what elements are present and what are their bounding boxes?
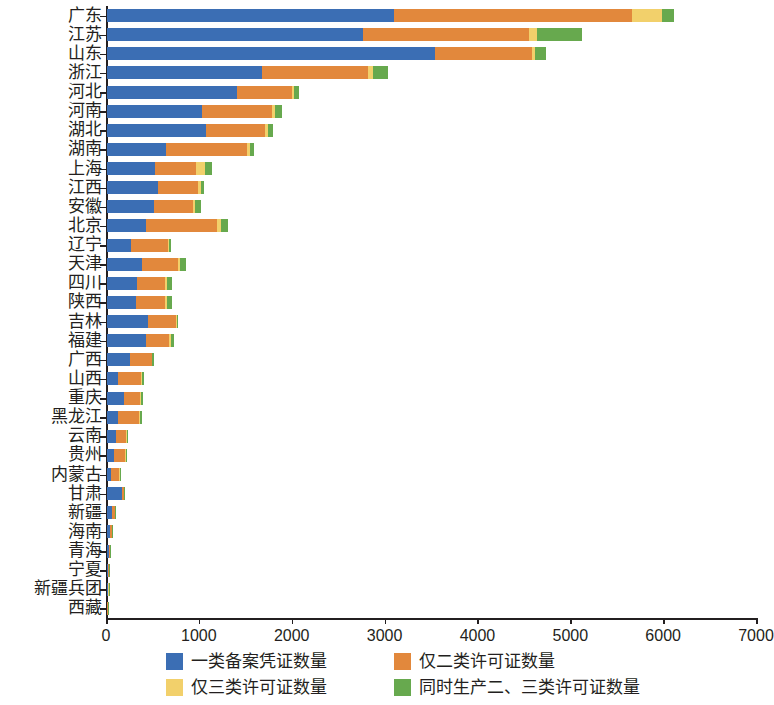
bar-segment [294, 86, 300, 99]
bar-segment [107, 86, 237, 99]
bar-row [107, 124, 273, 137]
bar-row [107, 525, 113, 538]
legend: 一类备案凭证数量 仅二类许可证数量 仅三类许可证数量 同时生产二、三类许可证数量 [166, 648, 746, 700]
bar-segment [435, 47, 533, 60]
category-label: 新疆 [0, 504, 102, 521]
x-axis-tick-label: 1000 [181, 627, 217, 645]
bar-segment [111, 468, 119, 481]
bar-segment [107, 181, 158, 194]
category-label: 新疆兵团 [0, 580, 102, 597]
bar-segment [107, 47, 435, 60]
bar-segment [107, 239, 131, 252]
bar-row [107, 392, 143, 405]
bar-segment [529, 28, 536, 41]
bar-segment [158, 181, 198, 194]
bar-segment [127, 430, 128, 443]
category-label: 山东 [0, 45, 102, 62]
bar-segment [140, 411, 142, 424]
category-label: 上海 [0, 160, 102, 177]
bar-row [107, 334, 174, 347]
bar-segment [107, 315, 148, 328]
bar-segment [107, 430, 116, 443]
bar-segment [107, 449, 114, 462]
bar-segment [177, 315, 179, 328]
bar-segment [250, 143, 254, 156]
x-axis-tick [385, 618, 387, 624]
bar-segment [275, 105, 282, 118]
x-axis-tick [756, 618, 758, 624]
bar-row [107, 449, 126, 462]
bar-segment [107, 219, 146, 232]
bar-segment [124, 392, 141, 405]
bar-segment [537, 28, 583, 41]
bar-segment [632, 9, 663, 22]
x-axis-tick [477, 618, 479, 624]
category-label: 陕西 [0, 293, 102, 310]
plot-area: 01000200030004000500060007000 [106, 6, 756, 618]
bar-segment [171, 334, 174, 347]
bar-segment [146, 219, 217, 232]
bar-segment [196, 162, 205, 175]
category-label: 黑龙江 [0, 408, 102, 425]
x-axis-tick-label: 7000 [738, 627, 774, 645]
category-label: 北京 [0, 217, 102, 234]
bar-segment [142, 372, 144, 385]
bar-segment [141, 392, 143, 405]
bar-row [107, 315, 178, 328]
bar-segment [142, 258, 178, 271]
bar-row [107, 239, 171, 252]
bar-row [107, 86, 299, 99]
category-label: 广东 [0, 7, 102, 24]
bar-segment [662, 9, 674, 22]
bar-segment [107, 105, 202, 118]
category-label: 西藏 [0, 599, 102, 616]
bar-segment [152, 353, 154, 366]
x-axis-tick-label: 5000 [552, 627, 588, 645]
bar-segment [107, 200, 154, 213]
bar-segment [118, 372, 141, 385]
bar-row [107, 219, 228, 232]
legend-item-0: 一类备案凭证数量 [166, 652, 394, 671]
bar-row [107, 506, 116, 519]
category-label: 甘肃 [0, 485, 102, 502]
bar-row [107, 353, 154, 366]
bar-segment [205, 162, 212, 175]
bar-segment [206, 124, 265, 137]
bar-row [107, 372, 144, 385]
legend-swatch-icon-0 [166, 653, 183, 670]
bar-segment [148, 315, 176, 328]
bar-segment [167, 296, 172, 309]
bar-segment [107, 372, 118, 385]
bar-segment [107, 353, 130, 366]
bar-segment [107, 411, 118, 424]
legend-item-2: 仅三类许可证数量 [166, 678, 394, 697]
bar-row [107, 28, 582, 41]
category-label: 海南 [0, 523, 102, 540]
legend-row-1: 一类备案凭证数量 仅二类许可证数量 [166, 648, 746, 674]
category-label: 浙江 [0, 64, 102, 81]
bar-row [107, 105, 282, 118]
bar-segment [107, 487, 122, 500]
bar-row [107, 468, 120, 481]
bar-segment [146, 334, 169, 347]
x-axis-tick-label: 4000 [460, 627, 496, 645]
bar-row [107, 9, 674, 22]
bar-row [107, 487, 125, 500]
category-label: 云南 [0, 427, 102, 444]
x-axis-tick-label: 6000 [645, 627, 681, 645]
bar-segment [202, 105, 273, 118]
bar-segment [155, 162, 196, 175]
bar-row [107, 181, 204, 194]
bar-segment [137, 277, 165, 290]
bar-segment [107, 66, 262, 79]
category-label: 福建 [0, 332, 102, 349]
bar-segment [237, 86, 292, 99]
x-axis-tick [663, 618, 665, 624]
bar-segment [180, 258, 186, 271]
legend-row-2: 仅三类许可证数量 同时生产二、三类许可证数量 [166, 674, 746, 700]
category-label: 吉林 [0, 313, 102, 330]
legend-label-2: 仅三类许可证数量 [191, 678, 327, 697]
bar-row [107, 430, 128, 443]
bar-segment [136, 296, 166, 309]
x-axis-line [106, 618, 756, 620]
